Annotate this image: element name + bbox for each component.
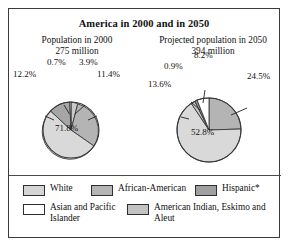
pie-2050 xyxy=(177,90,247,162)
legend: White African-American Hispanic* Asian a… xyxy=(9,176,281,238)
legend-swatch-white-icon xyxy=(23,185,45,197)
label-2050-hispanic: 13.6% xyxy=(148,79,171,89)
label-2000-white: 71.8% xyxy=(55,123,78,133)
label-2050-african-american: 24.5% xyxy=(247,71,270,81)
panel-2050-population: 394 million xyxy=(145,46,281,57)
label-2000-hispanic: 12.2% xyxy=(13,69,36,79)
panel-2000-heading: Population in 2000 xyxy=(9,35,145,46)
legend-label-american-indian: American Indian, Eskimo and Aleut xyxy=(154,202,274,223)
label-2050-white: 52.8% xyxy=(191,127,214,137)
legend-item-white[interactable]: White xyxy=(23,183,73,196)
legend-label-hispanic: Hispanic* xyxy=(222,183,260,194)
panel-2000: Population in 2000 275 million xyxy=(9,35,145,57)
legend-swatch-asian-pacific-islander-icon xyxy=(23,204,45,216)
label-2050-sliver: 0.9% xyxy=(164,61,183,71)
label-2000-african-american: 11.4% xyxy=(97,69,120,79)
legend-label-white: White xyxy=(50,183,73,194)
legend-item-asian-pacific-islander[interactable]: Asian and Pacific Islander xyxy=(23,202,123,223)
chart-title: America in 2000 and in 2050 xyxy=(9,18,279,29)
figure-frame: America in 2000 and in 2050 Population i… xyxy=(8,8,280,238)
label-2000-american-indian: 3.9% xyxy=(79,57,98,67)
legend-swatch-african-american-icon xyxy=(91,185,113,197)
legend-swatch-hispanic-icon xyxy=(195,185,217,197)
legend-label-african-american: African-American xyxy=(118,183,186,194)
legend-label-asian-pacific-islander: Asian and Pacific Islander xyxy=(50,202,122,223)
panel-2000-population: 275 million xyxy=(9,46,145,57)
label-2050-asian: 8.2% xyxy=(194,50,213,60)
legend-item-african-american[interactable]: African-American xyxy=(91,183,186,196)
legend-item-american-indian[interactable]: American Indian, Eskimo and Aleut xyxy=(127,202,277,223)
legend-item-hispanic[interactable]: Hispanic* xyxy=(195,183,260,196)
pies-svg xyxy=(9,57,281,183)
panel-2050: Projected population in 2050 394 million xyxy=(145,35,281,57)
panel-2050-heading: Projected population in 2050 xyxy=(145,35,281,46)
legend-swatch-american-indian-icon xyxy=(127,204,149,216)
label-2000-asian: 0.7% xyxy=(47,57,66,67)
pies-area: 0.7% 3.9% 11.4% 71.8% 12.2% 0.9% 8.2% 24… xyxy=(9,57,281,183)
